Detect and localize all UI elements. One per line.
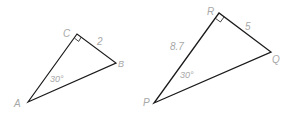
triangle-abc-outline — [28, 34, 116, 102]
angle-label-p: 30° — [180, 70, 194, 80]
diagram-canvas: C B A 2 30° R Q P 5 8.7 30° — [0, 0, 284, 124]
vertex-label-p: P — [143, 97, 150, 108]
right-angle-marker-c — [75, 37, 82, 41]
triangle-pqr-outline — [154, 13, 271, 103]
vertex-label-q: Q — [272, 54, 280, 65]
vertex-label-r: R — [207, 6, 214, 17]
side-label-cb: 2 — [96, 36, 103, 47]
triangle-pqr: R Q P 5 8.7 30° — [143, 6, 280, 108]
vertex-label-b: B — [118, 59, 124, 69]
vertex-label-a: A — [13, 98, 21, 109]
triangle-abc: C B A 2 30° — [13, 28, 124, 109]
side-label-pr: 8.7 — [170, 41, 184, 52]
angle-label-a: 30° — [50, 74, 64, 84]
vertex-label-c: C — [63, 28, 71, 39]
side-label-rq: 5 — [245, 21, 251, 32]
right-angle-marker-r — [215, 17, 224, 22]
